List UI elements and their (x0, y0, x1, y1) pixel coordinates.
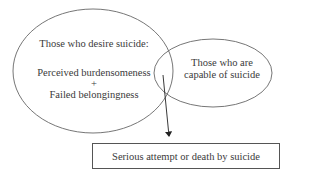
desire-title: Those who desire suicide: (38, 38, 150, 50)
capability-line-2: capable of suicide (172, 69, 272, 81)
arrow (163, 75, 169, 136)
factor-belongingness: Failed belongingness (34, 89, 154, 101)
outcome-box: Serious attempt or death by suicide (92, 143, 280, 169)
outcome-label: Serious attempt or death by suicide (112, 151, 260, 162)
capability-line-1: Those who are (172, 57, 272, 69)
